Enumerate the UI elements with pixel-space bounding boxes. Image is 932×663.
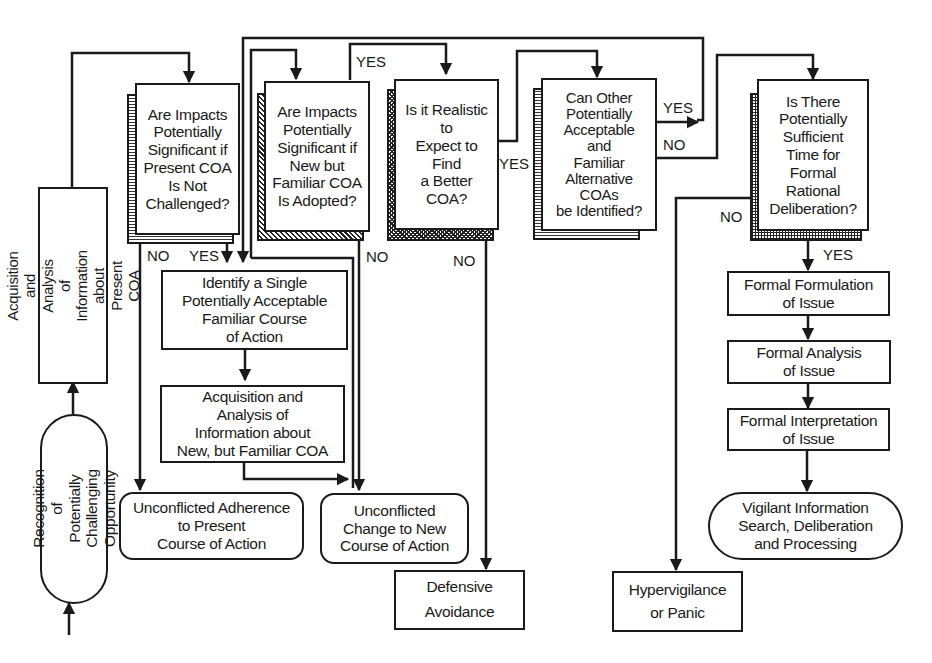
- q4-label: Can Other Potentially Acceptable and Fam…: [556, 90, 642, 220]
- formal-formulation-node: Formal Formulation of Issue: [727, 271, 890, 316]
- formal-analysis-node: Formal Analysis of Issue: [727, 340, 891, 384]
- hypervigilance-label: Hypervigilance or Panic: [629, 579, 726, 624]
- q4-no-label: NO: [663, 136, 686, 153]
- q5-yes-label: YES: [823, 246, 853, 263]
- defensive-avoidance-label: Defensive Avoidance: [425, 575, 494, 625]
- q1-decision-node: Are Impacts Potentially Significant if P…: [135, 83, 240, 235]
- q4-yes-label: YES: [663, 99, 693, 116]
- acquisition-new-node: Acquisition and Analysis of Information …: [160, 385, 345, 463]
- q1-no-label: NO: [147, 247, 170, 264]
- decision-flowchart: Recognition of Potentially Challenging O…: [0, 0, 932, 663]
- formal-interpretation-node: Formal Interpretation of Issue: [727, 408, 890, 451]
- formal-analysis-label: Formal Analysis of Issue: [757, 344, 862, 380]
- acquisition-present-label: Acquisition and Analysis of Information …: [4, 250, 142, 322]
- q5-no-label: NO: [720, 208, 743, 225]
- q2-decision-node: Are Impacts Potentially Significant if N…: [264, 81, 370, 232]
- q2-no-label: NO: [366, 248, 389, 265]
- q2-yes-label: YES: [356, 53, 386, 70]
- adherence-outcome-label: Unconflicted Adherence to Present Course…: [133, 499, 290, 552]
- formal-formulation-label: Formal Formulation of Issue: [744, 276, 873, 312]
- q3-decision-node: Is it Realistic to Expect to Find a Bett…: [394, 79, 499, 230]
- q3-label: Is it Realistic to Expect to Find a Bett…: [405, 101, 488, 208]
- acquisition-new-label: Acquisition and Analysis of Information …: [177, 388, 328, 459]
- q3-yes-label: YES: [499, 155, 529, 172]
- q2-label: Are Impacts Potentially Significant if N…: [272, 103, 361, 210]
- change-outcome-label: Unconflicted Change to New Course of Act…: [340, 502, 449, 555]
- identify-coa-label: Identify a Single Potentially Acceptable…: [182, 274, 327, 345]
- q1-yes-label: YES: [189, 247, 219, 264]
- recognition-label: Recognition of Potentially Challenging O…: [29, 470, 118, 549]
- adherence-outcome-node: Unconflicted Adherence to Present Course…: [119, 492, 304, 560]
- q5-decision-node: Is There Potentially Sufficient Time for…: [757, 79, 869, 231]
- q3-no-label: NO: [453, 252, 476, 269]
- vigilant-outcome-label: Vigilant Information Search, Deliberatio…: [738, 499, 872, 552]
- q5-label: Is There Potentially Sufficient Time for…: [769, 93, 856, 218]
- vigilant-outcome-node: Vigilant Information Search, Deliberatio…: [708, 492, 903, 560]
- formal-interpretation-label: Formal Interpretation of Issue: [740, 412, 878, 448]
- q4-decision-node: Can Other Potentially Acceptable and Fam…: [541, 78, 657, 231]
- acquisition-present-node: Acquisition and Analysis of Information …: [38, 187, 108, 384]
- defensive-avoidance-node: Defensive Avoidance: [394, 570, 525, 630]
- hypervigilance-node: Hypervigilance or Panic: [612, 571, 743, 632]
- change-outcome-node: Unconflicted Change to New Course of Act…: [320, 493, 469, 564]
- q1-label: Are Impacts Potentially Significant if P…: [143, 106, 231, 213]
- identify-coa-node: Identify a Single Potentially Acceptable…: [161, 270, 348, 350]
- recognition-node: Recognition of Potentially Challenging O…: [40, 414, 108, 604]
